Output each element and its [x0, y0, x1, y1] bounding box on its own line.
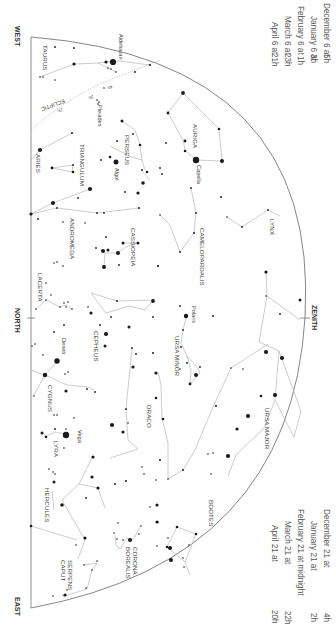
label-andromeda: ANDROMEDA	[69, 218, 76, 260]
star-capella	[193, 157, 199, 163]
time-bottom-date-3: March 21 at	[283, 521, 292, 565]
label-west: WEST	[14, 26, 21, 47]
sky-boundary-arc	[31, 37, 306, 608]
ecliptic-line	[31, 60, 160, 130]
label-cygnus: CYGNUS	[47, 385, 54, 412]
label-bootes: BOOTES	[208, 500, 215, 526]
time-bottom-date-2: February 21 at midnight	[296, 509, 305, 596]
label-hercules: HERCULES	[44, 488, 51, 523]
ecliptic-hour-2: 2h	[56, 107, 63, 114]
time-top-hour-2: 1h	[296, 56, 305, 66]
label-lyra: LYRA	[53, 441, 60, 458]
label-perseus: PERSEUS	[124, 135, 131, 165]
label-algol: Algol	[114, 168, 120, 180]
star-polaris	[184, 314, 188, 318]
label-serpens-caput-1: SERPENS	[67, 560, 74, 590]
time-top-hour-3: 23h	[283, 53, 292, 67]
time-top-date-4: April 6 at	[270, 22, 279, 55]
constellation-labels: TAURUS ARIES TRIANGULUM PERSEUS AURIGA A…	[35, 45, 276, 590]
label-cassiopeia: CASSIOPEIA	[130, 228, 137, 267]
time-bottom-hour-4: 20h	[270, 610, 279, 624]
constellation-lines	[31, 61, 301, 596]
label-aries: ARIES	[35, 154, 42, 173]
time-top-hour-4: 21h	[270, 53, 279, 67]
label-serpens-caput-2: CAPUT	[60, 560, 67, 582]
star-pleiades	[96, 99, 98, 101]
label-ursa-minor: URSA MINOR	[174, 336, 181, 377]
time-bottom-date-4: April 21 at	[270, 525, 279, 563]
ecliptic-hour-4: 4h	[106, 84, 113, 91]
label-corona-borealis-1: CORONA	[132, 547, 139, 576]
label-cepheus: CEPHEUS	[93, 331, 100, 362]
time-top-hour-0: 5h	[322, 54, 331, 64]
star-vega	[63, 432, 69, 438]
label-triangulum: TRIANGULUM	[79, 144, 86, 186]
time-top-hour-1: 3h	[309, 54, 318, 64]
times-top: December 6 at 5h January 6 at 3h Februar…	[270, 3, 331, 67]
label-deneb: Deneb	[61, 338, 67, 354]
time-top-date-3: March 6 at	[283, 16, 292, 55]
star-algol	[114, 160, 119, 165]
label-north: NORTH	[14, 308, 21, 333]
star-chart: WEST NORTH EAST ZENITH ECLIPTIC 4h 3h 2h…	[0, 0, 336, 637]
star-deneb	[54, 358, 59, 363]
time-top-date-0: December 6 at	[322, 3, 331, 57]
label-draco: DRACO	[146, 405, 153, 428]
time-top-date-2: February 6 at	[296, 6, 305, 55]
label-pleiades: Pleiades	[97, 105, 103, 127]
time-bottom-date-0: December 21 at	[322, 509, 331, 568]
time-bottom-date-1: January 21 at	[309, 521, 318, 571]
label-corona-borealis-2: BOREALIS	[125, 547, 132, 579]
time-bottom-hour-3: 22h	[283, 611, 292, 625]
time-bottom-hour-1: 2h	[309, 613, 318, 623]
ecliptic-hour-3: 3h	[87, 94, 94, 101]
label-taurus: TAURUS	[42, 45, 49, 71]
label-ursa-major: URSA MAJOR	[264, 408, 271, 450]
label-auriga: AURIGA	[192, 124, 199, 149]
star-aldebaran	[110, 59, 116, 65]
label-polaris: Polaris	[191, 306, 197, 323]
label-east: EAST	[14, 597, 21, 616]
time-bottom-hour-0: 4h	[322, 613, 331, 623]
label-lacerta: LACERTA	[37, 273, 44, 302]
label-camelopardalis: CAMELOPARDALIS	[199, 228, 206, 286]
times-bottom: December 21 at 4h January 21 at 2h Febru…	[270, 509, 331, 625]
label-vega: Vega	[77, 430, 83, 444]
label-lynx: LYNX	[269, 219, 276, 235]
label-aldebaran: Aldebaran	[118, 34, 124, 60]
label-zenith: ZENITH	[311, 305, 318, 330]
label-capella: Capella	[196, 165, 202, 185]
